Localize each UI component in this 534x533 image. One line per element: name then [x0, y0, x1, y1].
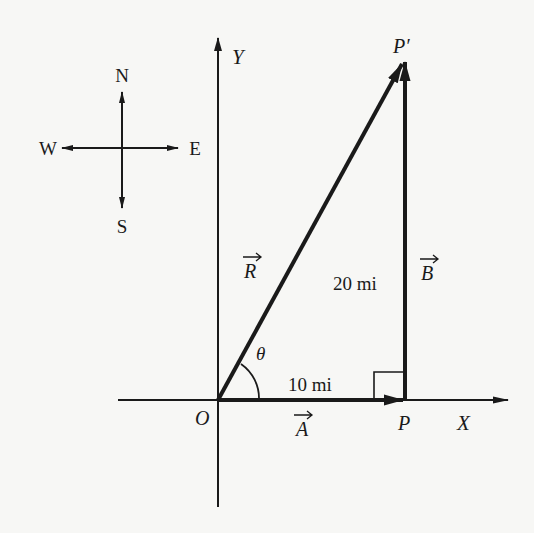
y-axis-label: Y: [232, 45, 246, 69]
vector-r-arrow: [218, 64, 402, 400]
compass-north-label: N: [115, 65, 129, 86]
theta-label: θ: [256, 343, 265, 364]
vector-b-label: B: [421, 262, 433, 284]
theta-arc: [241, 364, 259, 400]
point-p-label: P: [397, 412, 410, 434]
compass-west-label: W: [39, 138, 57, 159]
vector-r-label: R: [243, 260, 256, 282]
vector-a: 10 mi A: [218, 374, 403, 440]
compass-east-label: E: [189, 138, 201, 159]
compass-south-label: S: [117, 216, 128, 237]
point-p-prime-label: P′: [392, 35, 410, 57]
compass: N S E W: [39, 65, 201, 237]
vector-a-magnitude: 10 mi: [288, 374, 332, 395]
vector-r: R: [218, 64, 402, 400]
vector-b-magnitude: 20 mi: [333, 273, 377, 294]
vector-a-label: A: [294, 418, 309, 440]
vector-diagram: N S E W Y X O θ 10 mi A 20 mi B R P P′: [0, 0, 534, 533]
x-axis-label: X: [456, 411, 471, 435]
right-angle-marker: [374, 372, 403, 400]
vector-b: 20 mi B: [333, 62, 438, 400]
origin-label: O: [195, 407, 209, 429]
axes: Y X O: [118, 38, 508, 507]
